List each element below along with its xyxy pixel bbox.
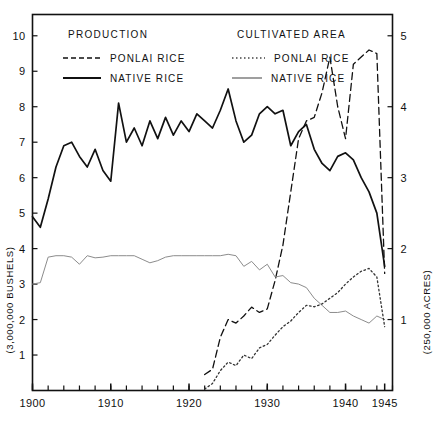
right-tick-label: 3 <box>401 172 408 184</box>
chart-figure: 12345678910 12345 1900191019201930194019… <box>0 0 441 423</box>
legend-entry-label: PONLAI RICE <box>274 53 349 64</box>
right-axis-title: (250,000 ACRES) <box>421 270 432 355</box>
x-tick-label: 1930 <box>254 397 280 409</box>
left-tick-label: 4 <box>19 243 26 255</box>
rice-production-cultivated-area-chart: 12345678910 12345 1900191019201930194019… <box>0 0 441 423</box>
left-tick-label: 6 <box>19 172 26 184</box>
legend-entry-label: NATIVE RICE <box>110 73 184 84</box>
left-tick-label: 8 <box>19 101 26 113</box>
right-tick-label: 2 <box>401 243 408 255</box>
right-tick-label: 1 <box>401 314 408 326</box>
x-tick-label: 1945 <box>372 397 398 409</box>
left-tick-label: 9 <box>19 65 26 77</box>
left-tick-label: 3 <box>19 278 26 290</box>
legend-entry-label: PONLAI RICE <box>110 53 185 64</box>
legend-group-title: PRODUCTION <box>68 29 148 40</box>
x-tick-label: 1900 <box>19 397 45 409</box>
x-tick-label: 1920 <box>176 397 202 409</box>
left-tick-label: 5 <box>19 207 26 219</box>
left-tick-label: 1 <box>19 349 26 361</box>
left-tick-label: 7 <box>19 136 26 148</box>
legend-entry-label: NATIVE RICE <box>271 73 345 84</box>
figure-background <box>0 0 441 423</box>
legend-group-title: CULTIVATED AREA <box>237 29 346 40</box>
left-axis-title: (3,000,000 BUSHELS) <box>4 247 15 354</box>
right-tick-label: 5 <box>401 30 408 42</box>
x-tick-label: 1940 <box>333 397 359 409</box>
right-tick-label: 4 <box>401 101 408 113</box>
left-tick-label: 2 <box>19 314 26 326</box>
left-tick-label: 10 <box>12 30 25 42</box>
x-tick-label: 1910 <box>98 397 124 409</box>
